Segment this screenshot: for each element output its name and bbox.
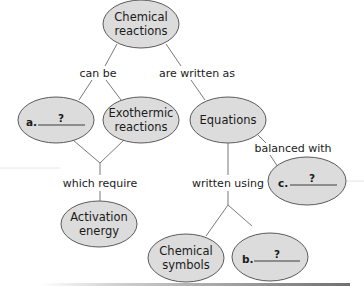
node-label: reactions — [115, 120, 168, 134]
node-blank-b[interactable]: b. ? — [232, 233, 308, 281]
node-label: energy — [79, 224, 119, 238]
link-label-are-written-as: are written as — [159, 67, 235, 80]
node-label: Activation — [70, 210, 128, 224]
link-label-which-require: which require — [63, 177, 138, 190]
answer-placeholder: ? — [274, 248, 280, 260]
concept-map: Chemical reactions can be are written as… — [0, 0, 364, 286]
node-label: symbols — [162, 258, 210, 272]
node-blank-a[interactable]: a. ? — [18, 97, 94, 143]
link-label-balanced-with: balanced with — [254, 142, 331, 155]
node-label: Chemical — [159, 244, 212, 258]
link-label-can-be: can be — [79, 67, 116, 80]
answer-placeholder: ? — [58, 112, 64, 124]
node-label: Equations — [200, 113, 257, 127]
blank-label: c. — [278, 177, 288, 189]
blank-label: a. — [26, 116, 37, 128]
answer-placeholder: ? — [309, 172, 315, 184]
blank-label: b. — [242, 253, 254, 265]
node-activation-energy: Activation energy — [61, 201, 137, 247]
node-equations: Equations — [190, 97, 266, 143]
node-exothermic-reactions: Exothermic reactions — [103, 97, 179, 143]
node-chemical-symbols: Chemical symbols — [148, 234, 224, 282]
node-blank-c[interactable]: c. ? — [268, 157, 346, 205]
node-label: Exothermic — [109, 106, 174, 120]
node-label: reactions — [115, 24, 168, 38]
node-chemical-reactions: Chemical reactions — [103, 0, 179, 48]
link-label-written-using: written using — [192, 177, 264, 190]
node-label: Chemical — [114, 10, 167, 24]
